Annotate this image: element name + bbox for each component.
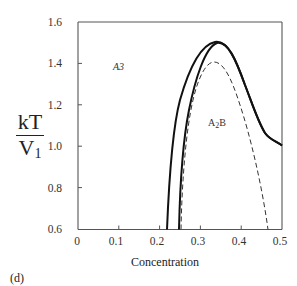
y-tick-label: 1.6: [48, 16, 63, 28]
y-tick-label: 0.8: [48, 182, 63, 194]
x-tick-label: 0.1: [109, 235, 124, 247]
y-ticks: [78, 63, 82, 187]
x-tick-label: 0.4: [232, 235, 247, 247]
y-axis-title-denominator-main: V: [19, 135, 35, 160]
y-tick-label: 1.4: [48, 57, 63, 69]
region-label-a3: A3: [112, 61, 124, 72]
svg-text:A2B: A2B: [208, 117, 226, 130]
y-axis-title-denominator-sub: 1: [34, 146, 41, 161]
y-tick-label: 1.2: [48, 99, 63, 111]
x-tick-label: 0.5: [273, 235, 288, 247]
y-tick-label: 0.6: [48, 223, 63, 235]
y-axis-title-denominator: V1: [10, 136, 50, 166]
inner-solid-boundary-curve: [179, 43, 282, 230]
region-label-a2b: A2B: [208, 117, 226, 130]
x-tick-label: 0.2: [150, 235, 165, 247]
x-axis-title: Concentration: [131, 255, 199, 269]
panel-label: (d): [10, 271, 24, 286]
x-tick-label: 0: [74, 235, 80, 247]
y-axis-title-numerator: kT: [16, 110, 44, 136]
x-tick-label: 0.3: [191, 235, 206, 247]
y-axis-title: kT V1: [10, 110, 50, 166]
x-tick-labels: 0 0.1 0.2 0.3 0.4 0.5: [74, 235, 287, 247]
